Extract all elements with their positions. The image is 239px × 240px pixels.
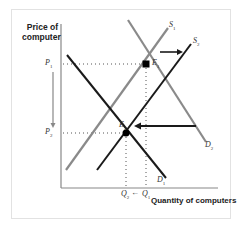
price-label-p2: P2 — [45, 127, 52, 138]
supply-curve-s1 — [66, 28, 168, 170]
curve-label-d1: D1 — [157, 175, 165, 186]
equilibrium-label-e2: E2 — [119, 120, 126, 131]
quantity-label-q2: Q2 — [121, 189, 129, 200]
y-axis-label: Price of computer — [22, 22, 58, 42]
x-axis-label: Quantity of computers — [151, 196, 236, 205]
curve-label-s1: S1 — [169, 20, 176, 31]
price-label-p1: P1 — [45, 58, 52, 69]
demand-shift-arrowhead — [134, 123, 141, 130]
quantity-label-q1: Q1 — [142, 189, 150, 200]
demand-curve-d1 — [67, 55, 166, 178]
quantity-decrease-arrow: ← — [131, 188, 139, 197]
equilibrium-e1-marker — [143, 61, 150, 68]
y-axis-label-line1: Price of — [22, 22, 58, 32]
supply-shift-arrowhead — [177, 49, 183, 55]
y-axis-label-line2: computer — [22, 32, 58, 42]
curve-label-s2: S2 — [193, 36, 200, 47]
curve-label-d2: D2 — [205, 140, 213, 151]
equilibrium-label-e1: E1 — [152, 58, 159, 69]
